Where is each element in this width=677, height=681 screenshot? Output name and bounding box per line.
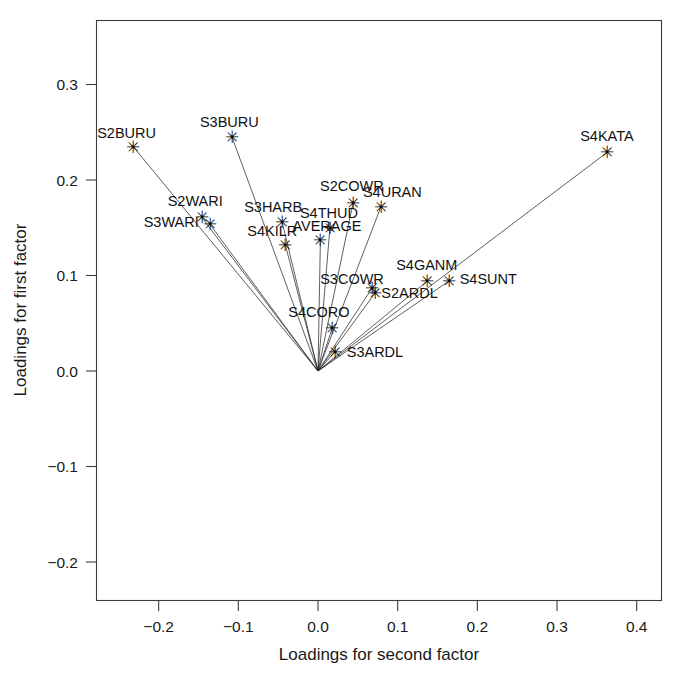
- loadings-scatter-plot: −0.2−0.10.00.10.20.30.4 −0.2−0.10.00.10.…: [0, 0, 677, 681]
- loading-vectors: [133, 137, 607, 371]
- star-marker-s3ardl: ✳: [328, 343, 342, 362]
- star-marker-s4coro: ✳: [325, 319, 339, 338]
- y-axis-ticks: [86, 0, 96, 562]
- plot-frame: [97, 21, 662, 601]
- y-tick-label: −0.1: [47, 458, 78, 475]
- x-axis-tick-labels: −0.2−0.10.00.10.20.30.4: [143, 618, 647, 635]
- loading-vector-s2buru: [133, 147, 318, 371]
- point-label-s2wari: S2WARI: [168, 193, 223, 209]
- star-marker-s4kata: ✳: [600, 143, 614, 162]
- point-label-s4kilr: S4KILR: [247, 223, 297, 239]
- star-marker-s3wari: ✳: [203, 215, 217, 234]
- point-label-s4coro: S4CORO: [288, 304, 349, 320]
- point-label-s4kata: S4KATA: [580, 128, 634, 144]
- y-tick-label: 0.1: [56, 267, 78, 284]
- point-label-s3wari: S3WARI: [144, 214, 199, 230]
- point-label-s2buru: S2BURU: [97, 125, 156, 141]
- point-label-s3buru: S3BURU: [200, 114, 259, 130]
- loading-vector-s3wari: [210, 224, 318, 371]
- point-label-s4sunt: S4SUNT: [460, 271, 517, 287]
- x-axis-ticks: [159, 601, 637, 611]
- y-tick-label: −0.2: [47, 554, 78, 571]
- loading-vector-s3buru: [232, 137, 318, 371]
- x-tick-label: 0.0: [307, 618, 329, 635]
- y-tick-label: 0.3: [56, 76, 78, 93]
- data-point-labels: S2BURUS3BURUS2WARIS3WARIS3HARBS4KILRS4TH…: [97, 114, 634, 360]
- x-tick-label: 0.1: [387, 618, 409, 635]
- y-axis-tick-labels: −0.2−0.10.00.10.20.30.4: [47, 0, 78, 571]
- point-label-s3harb: S3HARB: [244, 199, 302, 215]
- x-axis-title: Loadings for second factor: [279, 645, 480, 664]
- data-point-markers: ✳✳✳✳✳✳✳✳✳✳✳✳✳✳✳✳✳: [126, 128, 614, 362]
- star-marker-s4uran: ✳: [374, 198, 388, 217]
- point-label-s3ardl: S3ARDL: [347, 344, 403, 360]
- x-tick-label: 0.4: [626, 618, 648, 635]
- point-label-s3cowr: S3COWR: [320, 271, 384, 287]
- point-label-average: AVERAGE: [292, 218, 361, 234]
- factor-loadings-figure: −0.2−0.10.00.10.20.30.4 −0.2−0.10.00.10.…: [0, 0, 677, 681]
- point-label-s4ganm: S4GANM: [396, 257, 457, 273]
- point-label-s2ardl: S2ARDL: [381, 285, 437, 301]
- star-marker-s4sunt: ✳: [442, 272, 456, 291]
- point-label-s4uran: S4URAN: [363, 184, 422, 200]
- y-axis-title: Loadings for first factor: [11, 223, 30, 396]
- star-marker-s3buru: ✳: [225, 128, 239, 147]
- x-tick-label: 0.3: [546, 618, 568, 635]
- x-tick-label: 0.2: [467, 618, 489, 635]
- x-tick-label: −0.1: [223, 618, 254, 635]
- y-tick-label: 0.2: [56, 172, 78, 189]
- y-tick-label: 0.0: [56, 363, 78, 380]
- x-tick-label: −0.2: [143, 618, 174, 635]
